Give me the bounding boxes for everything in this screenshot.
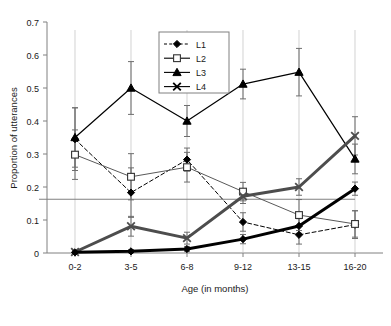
y-tick-label: 0.5: [26, 84, 39, 94]
x-tick-label: 16-20: [343, 262, 366, 272]
x-axis-title: Age (in months): [181, 283, 248, 294]
y-tick-label: 0.1: [26, 216, 39, 226]
y-tick-label: 0.2: [26, 183, 39, 193]
y-tick-label: 0: [34, 249, 39, 259]
legend-marker-l2: [174, 55, 181, 62]
legend-label-l3: L3: [196, 68, 206, 78]
x-tick-label: 6-8: [180, 262, 193, 272]
chart-legend: L1L2L3L4: [159, 32, 229, 93]
series-marker-l2: [352, 221, 359, 228]
y-tick-label: 0.4: [26, 117, 39, 127]
legend-label-l4: L4: [196, 82, 206, 92]
legend-label-l2: L2: [196, 54, 206, 64]
y-tick-label: 0.3: [26, 150, 39, 160]
series-marker-l2: [72, 151, 79, 158]
y-tick-label: 0.7: [26, 18, 39, 28]
proportion-of-utterances-line-chart: 00.10.20.30.40.50.60.7 0-23-56-89-1213-1…: [0, 0, 391, 326]
legend-box: [159, 32, 229, 93]
x-tick-label: 0-2: [68, 262, 81, 272]
legend-label-l1: L1: [196, 40, 206, 50]
chart-figure: 00.10.20.30.40.50.60.7 0-23-56-89-1213-1…: [0, 0, 391, 326]
series-marker-l2: [128, 173, 135, 180]
x-tick-label: 3-5: [124, 262, 137, 272]
y-tick-label: 0.6: [26, 51, 39, 61]
series-marker-l2: [296, 212, 303, 219]
y-axis-title: Proportion of utterances: [8, 87, 19, 189]
x-tick-label: 13-15: [287, 262, 310, 272]
series-marker-l2: [184, 164, 191, 171]
x-tick-label: 9-12: [234, 262, 252, 272]
